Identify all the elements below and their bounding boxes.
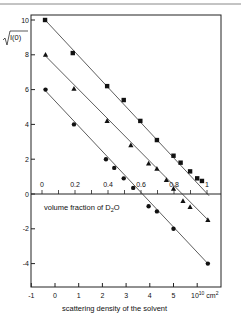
fit-line-circles: [44, 90, 208, 264]
x-unit-label: 1010cm2: [191, 290, 219, 299]
circle-marker: [43, 87, 47, 91]
y-axis-ticks: 1086420-2-4: [21, 17, 35, 268]
circle-marker: [206, 261, 210, 265]
y-tick-label: 6: [25, 86, 29, 93]
secondary-x-tick-label: 0: [40, 181, 44, 188]
y-tick-label: 10: [21, 17, 29, 24]
circle-marker: [72, 122, 76, 126]
y-tick-label: 8: [25, 51, 29, 58]
circle-marker: [146, 204, 150, 208]
square-marker: [200, 179, 204, 183]
square-marker: [195, 176, 199, 180]
y-axis-label-visible: I(0): [10, 33, 22, 42]
y-tick-label: 4: [25, 121, 29, 128]
square-marker: [155, 138, 159, 142]
x-tick-label: 0: [53, 292, 57, 299]
square-marker: [105, 84, 109, 88]
square-marker: [178, 160, 182, 164]
chart: 1086420-2-4 -1012345 00.20.40.60.81 √I(0…: [0, 0, 241, 316]
square-marker: [71, 51, 75, 55]
x-tick-label: 1: [77, 292, 81, 299]
fit-lines: [44, 19, 209, 263]
square-marker: [138, 119, 142, 123]
secondary-x-tick-label: 0.4: [103, 181, 113, 188]
secondary-x-axis-title: volume fraction of D2O: [44, 203, 120, 213]
secondary-x-tick-label: 0.6: [136, 181, 146, 188]
fit-line-triangles: [44, 55, 209, 221]
x-tick-label: 3: [124, 292, 128, 299]
x-tick-label: 4: [148, 292, 152, 299]
x-axis-title: scattering density of the solvent: [62, 304, 168, 313]
secondary-x-axis-ticks: 00.20.40.60.81: [40, 181, 209, 194]
x-axis-ticks: -1012345: [28, 283, 197, 299]
data-markers: [43, 18, 211, 266]
fit-line-squares: [44, 19, 209, 196]
x-tick-label: 5: [172, 292, 176, 299]
y-tick-label: -4: [23, 260, 29, 267]
circle-marker: [122, 176, 126, 180]
x-tick-label: -1: [28, 292, 34, 299]
circle-marker: [131, 186, 135, 190]
y-tick-label: -2: [23, 225, 29, 232]
square-marker: [122, 98, 126, 102]
y-tick-label: 0: [25, 191, 29, 198]
plot-frame: [31, 15, 221, 287]
square-marker: [188, 169, 192, 173]
x-tick-label: 2: [100, 292, 104, 299]
square-marker: [171, 154, 175, 158]
y-tick-label: 2: [25, 156, 29, 163]
circle-marker: [155, 209, 159, 213]
square-marker: [43, 18, 47, 22]
circle-marker: [104, 157, 108, 161]
triangle-marker: [180, 198, 185, 203]
y-axis-title: √I(0) I(0): [3, 31, 28, 45]
triangle-marker: [128, 142, 133, 147]
circle-marker: [112, 166, 116, 170]
secondary-x-tick-label: 1: [205, 181, 209, 188]
triangle-marker: [187, 204, 192, 209]
triangle-marker: [43, 52, 48, 57]
circle-marker: [171, 227, 175, 231]
secondary-x-tick-label: 0.2: [70, 181, 80, 188]
